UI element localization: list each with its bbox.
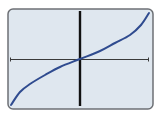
graph-display: [0, 0, 161, 118]
